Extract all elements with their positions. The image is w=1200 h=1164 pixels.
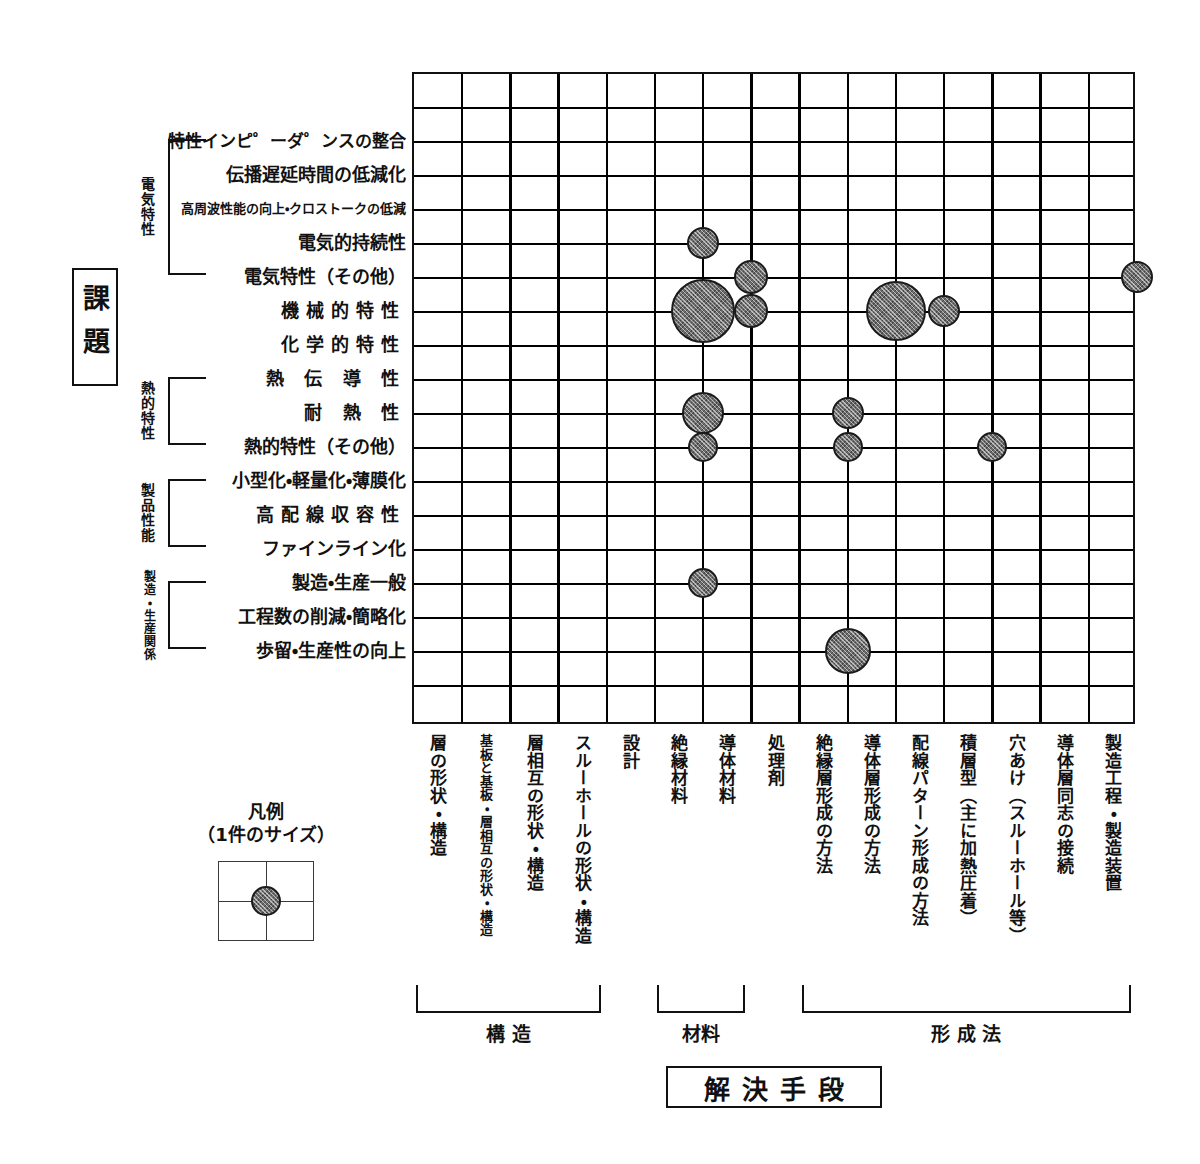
column-group-label: 材料 (682, 1019, 720, 1046)
row-label-r4: 電気的持続性 (0, 228, 406, 254)
legend-bubble (251, 886, 281, 916)
grid-line-horizontal (414, 243, 1133, 246)
grid-line-vertical (1088, 74, 1091, 722)
column-label-c12: 積層型（主に加熱圧着） (958, 734, 977, 984)
grid-line-horizontal (414, 311, 1133, 314)
grid-line-vertical (991, 74, 994, 722)
bubble-marker (928, 295, 960, 327)
row-label-r12: 高配線収容性 (0, 500, 406, 526)
grid-line-vertical (750, 74, 753, 722)
row-label-r14: 製造・生産一般 (0, 568, 406, 594)
row-label-r3: 高周波性能の向上・クロストークの低減 (0, 197, 406, 216)
column-label-c11: 配線パターン形成の方法 (910, 734, 929, 984)
bubble-marker (833, 432, 863, 462)
grid-line-vertical (557, 74, 560, 722)
grid-line-vertical (606, 74, 609, 722)
row-label-r8: 熱 伝 導 性 (0, 364, 406, 390)
grid-line-vertical (461, 74, 464, 722)
bubble-marker (825, 628, 871, 674)
column-label-c2: 基板と基板・層相互の形状・構造 (478, 734, 493, 984)
column-label-c9: 絶縁層形成の方法 (813, 734, 832, 984)
column-label-c10: 導体層形成の方法 (861, 734, 880, 984)
bubble-marker (977, 432, 1007, 462)
bubble-marker (682, 392, 724, 434)
grid-line-vertical (943, 74, 946, 722)
row-label-r15: 工程数の削減・簡略化 (0, 602, 406, 628)
bubble-marker (688, 568, 718, 598)
grid-line-vertical (1039, 74, 1042, 722)
row-label-r1: 特性インピ゜ーダ゜ンスの整合 (0, 126, 406, 151)
bubble-marker (832, 397, 864, 429)
grid-line-vertical (798, 74, 801, 722)
bubble-marker (734, 294, 768, 328)
grid-line-horizontal (414, 481, 1133, 484)
column-group-label: 形 成 法 (931, 1019, 1001, 1046)
grid-line-horizontal (414, 583, 1133, 586)
grid-line-vertical (509, 74, 512, 722)
legend: 凡例 （1件のサイズ） (168, 800, 364, 941)
column-label-c5: 設計 (620, 734, 639, 984)
grid-line-horizontal (414, 413, 1133, 416)
legend-title: 凡例 (168, 800, 364, 823)
column-label-c8: 処理剤 (765, 734, 784, 984)
grid-line-horizontal (414, 379, 1133, 382)
row-label-r13: ファインライン化 (0, 534, 406, 560)
row-label-r7: 化学的特性 (0, 330, 406, 356)
grid-line-horizontal (414, 345, 1133, 348)
matrix-grid[interactable] (412, 72, 1135, 724)
row-label-r2: 伝播遅延時間の低減化 (0, 160, 406, 186)
bubble-marker (688, 432, 718, 462)
column-label-c6: 絶縁材料 (669, 734, 688, 984)
grid-line-horizontal (414, 141, 1133, 144)
bubble-marker (687, 227, 719, 259)
column-group-bracket (802, 985, 1131, 1013)
grid-line-horizontal (414, 447, 1133, 450)
column-label-c14: 導体層同志の接続 (1054, 734, 1073, 984)
grid-line-horizontal (414, 685, 1133, 688)
row-label-r9: 耐 熱 性 (0, 398, 406, 424)
column-label-c4: スルーホールの形状・構造 (572, 734, 591, 984)
grid-line-horizontal (414, 277, 1133, 280)
grid-line-horizontal (414, 175, 1133, 178)
row-label-r11: 小型化・軽量化・薄膜化 (0, 466, 406, 492)
grid-line-vertical (895, 74, 898, 722)
legend-swatch-box (218, 861, 314, 941)
bubble-marker (866, 281, 926, 341)
grid-line-horizontal (414, 617, 1133, 620)
grid-line-horizontal (414, 515, 1133, 518)
bubble-marker (1121, 261, 1153, 293)
legend-subtitle: （1件のサイズ） (168, 823, 364, 846)
column-label-c1: 層の形状・構造 (428, 734, 447, 984)
row-label-r16: 歩留・生産性の向上 (0, 636, 406, 662)
column-group-bracket (416, 985, 601, 1013)
grid-line-horizontal (414, 209, 1133, 212)
row-label-r6: 機械的特性 (0, 296, 406, 322)
grid-line-horizontal (414, 107, 1133, 110)
bubble-marker (734, 260, 768, 294)
chart-canvas: 課題 電気特性熱的特性製品性能製造・生産関係 特性インピ゜ーダ゜ンスの整合伝播遅… (0, 0, 1200, 1164)
row-label-r5: 電気特性（その他） (0, 262, 406, 288)
grid-line-horizontal (414, 651, 1133, 654)
bubble-marker (671, 279, 735, 343)
column-group-bracket (657, 985, 745, 1013)
column-group-label: 構 造 (486, 1019, 531, 1046)
column-label-c3: 層相互の形状・構造 (524, 734, 543, 984)
grid-line-vertical (654, 74, 657, 722)
column-label-c15: 製造工程・製造装置 (1102, 734, 1121, 984)
row-label-r10: 熱的特性（その他） (0, 432, 406, 458)
horizontal-axis-title: 解決手段 (666, 1066, 882, 1108)
horizontal-axis-title-text: 解決手段 (692, 1069, 856, 1106)
column-label-c13: 穴あけ（スルーホール等） (1006, 734, 1025, 984)
grid-line-horizontal (414, 549, 1133, 552)
column-label-c7: 導体材料 (717, 734, 736, 984)
